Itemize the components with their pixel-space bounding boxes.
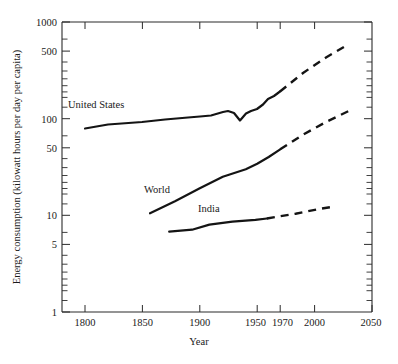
y-tick-label-1: 1 [52, 307, 57, 318]
right-axis-ticks [364, 22, 372, 301]
series-united-states-historical [85, 92, 280, 129]
y-tick-labels: 1000 500 100 50 10 5 1 [36, 17, 57, 318]
y-tick-label-1000: 1000 [36, 17, 57, 28]
x-tick-label-1850: 1850 [132, 317, 153, 328]
y-tick-label-10: 10 [47, 210, 58, 221]
y-tick-label-500: 500 [41, 46, 57, 57]
series-india-projected [267, 206, 336, 218]
series-label-world: World [144, 184, 171, 195]
x-tick-labels: 1800 1850 1900 1950 1970 2000 2050 [75, 317, 382, 328]
y-axis-title: Energy consumption (kilowatt hours per d… [11, 49, 23, 284]
series-label-india: India [198, 203, 220, 214]
y-axis-major-ticks [62, 22, 70, 312]
x-tick-label-1950: 1950 [245, 317, 266, 328]
plot-frame [62, 22, 372, 312]
x-axis-title: Year [189, 336, 209, 347]
series-label-united-states: United States [68, 99, 124, 110]
series-world-projected [280, 111, 349, 150]
y-tick-label-100: 100 [41, 114, 57, 125]
y-tick-label-50: 50 [47, 143, 58, 154]
series-united-states-projected [280, 44, 349, 92]
x-tick-label-1900: 1900 [189, 317, 210, 328]
x-tick-label-2050: 2050 [361, 317, 382, 328]
series-world: World [144, 111, 349, 214]
y-tick-label-5: 5 [52, 239, 57, 250]
x-tick-label-2000: 2000 [304, 317, 325, 328]
x-tick-label-1970: 1970 [272, 317, 293, 328]
series-india-historical [169, 219, 267, 232]
chart-svg: 1000 500 100 50 10 5 1 1800 1850 1900 19… [0, 0, 398, 364]
x-axis-ticks [85, 22, 372, 312]
chart-figure: 1000 500 100 50 10 5 1 1800 1850 1900 19… [0, 0, 398, 364]
y-axis-minor-ticks [62, 39, 68, 300]
series-india: India [169, 203, 336, 232]
x-tick-label-1800: 1800 [75, 317, 96, 328]
series-united-states: United States [68, 44, 349, 129]
